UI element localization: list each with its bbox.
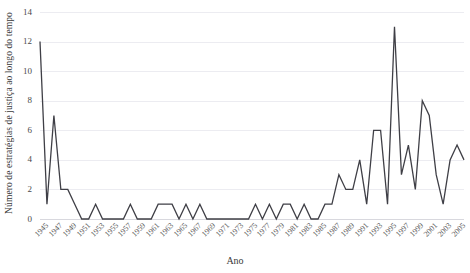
y-tick-label: 4 (10, 155, 32, 164)
x-axis-title: Ano (0, 255, 470, 266)
x-axis-tick-labels: 1945194719491951195319551957195919611963… (40, 221, 464, 257)
line-series (40, 12, 464, 219)
y-tick-label: 6 (10, 126, 32, 135)
x-axis-title-text: Ano (226, 255, 243, 266)
chart-figure: Número de estratégias de justiça ao long… (0, 0, 470, 273)
series-polyline (40, 27, 464, 219)
y-tick-label: 14 (10, 8, 32, 17)
y-tick-label: 2 (10, 185, 32, 194)
y-tick-label: 8 (10, 96, 32, 105)
x-tick-label: 2005 (450, 221, 468, 239)
y-tick-label: 10 (10, 67, 32, 76)
y-tick-label: 12 (10, 37, 32, 46)
y-tick-label: 0 (10, 215, 32, 224)
plot-area (40, 12, 464, 219)
